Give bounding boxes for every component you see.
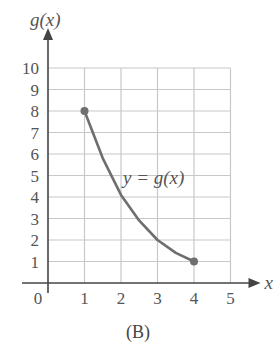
- y-tick-label: 9: [31, 81, 40, 100]
- y-tick-label: 7: [31, 124, 40, 143]
- x-tick-label: 2: [117, 289, 126, 308]
- y-tick-label: 8: [31, 102, 40, 121]
- x-axis-label: x: [264, 272, 274, 293]
- endpoint-dot: [81, 107, 89, 115]
- y-tick-label: 4: [31, 188, 40, 207]
- chart: 12345678910012345g(x)xy = g(x)(B): [0, 0, 277, 354]
- x-axis-arrow-icon: [249, 278, 261, 288]
- y-axis-label: g(x): [30, 9, 61, 31]
- endpoint-dot: [190, 258, 198, 266]
- x-tick-label: 5: [226, 289, 235, 308]
- x-tick-label: 4: [190, 289, 199, 308]
- caption: (B): [126, 322, 150, 343]
- curve-label: y = g(x): [121, 167, 184, 189]
- y-tick-label: 5: [31, 167, 40, 186]
- y-tick-label: 2: [31, 231, 40, 250]
- x-tick-label: 3: [153, 289, 162, 308]
- y-tick-label: 3: [31, 210, 40, 229]
- x-tick-label: 0: [34, 289, 43, 308]
- x-tick-label: 1: [80, 289, 89, 308]
- y-tick-label: 1: [31, 253, 40, 272]
- y-tick-label: 10: [22, 59, 39, 78]
- y-tick-label: 6: [31, 145, 40, 164]
